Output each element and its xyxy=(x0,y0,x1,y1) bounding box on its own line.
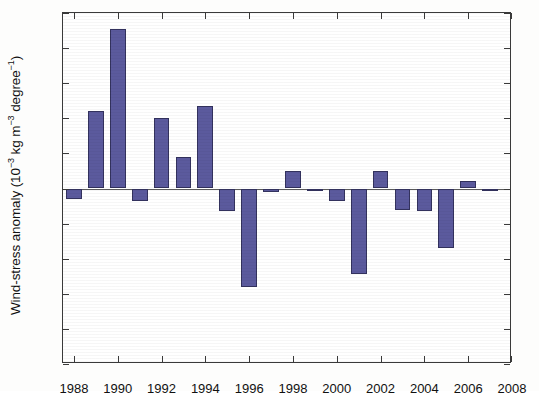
y-tick--1-right xyxy=(504,364,510,365)
x-tick-label-2008: 2008 xyxy=(489,381,535,396)
x-tick-2006 xyxy=(468,356,469,362)
bar-1995 xyxy=(219,189,235,212)
bar-2007 xyxy=(482,189,498,191)
y-axis-label-exp3: −1 xyxy=(6,60,16,70)
x-tick-1996 xyxy=(249,356,250,362)
x-tick-1990-top xyxy=(118,13,119,19)
x-tick-1988-top xyxy=(74,13,75,19)
y-tick-1 xyxy=(63,13,69,14)
bar-2004 xyxy=(417,189,433,212)
y-tick--1 xyxy=(63,364,69,365)
x-tick-label-1988: 1988 xyxy=(51,381,97,396)
x-tick-2004 xyxy=(424,356,425,362)
y-tick--0_4-right xyxy=(504,259,510,260)
x-tick-2002 xyxy=(381,356,382,362)
y-tick-0_2-right xyxy=(504,153,510,154)
bar-1990 xyxy=(110,29,126,189)
bar-1991 xyxy=(132,189,148,201)
y-axis-label-exp1: −3 xyxy=(6,158,16,168)
bar-1993 xyxy=(176,157,192,189)
bar-1989 xyxy=(88,111,104,188)
y-tick--0_8 xyxy=(63,329,69,330)
bar-1999 xyxy=(307,189,323,191)
x-tick-2004-top xyxy=(424,13,425,19)
x-tick-label-1994: 1994 xyxy=(182,381,228,396)
x-tick-1994 xyxy=(205,356,206,362)
x-tick-label-1996: 1996 xyxy=(226,381,272,396)
x-tick-label-2002: 2002 xyxy=(358,381,404,396)
x-tick-1990 xyxy=(118,356,119,362)
y-axis-label: Wind-stress anomaly (10−3 kg m−3 degree−… xyxy=(8,16,23,356)
x-tick-2000-top xyxy=(337,13,338,19)
y-tick-0_8-right xyxy=(504,48,510,49)
y-tick-0_2 xyxy=(63,153,69,154)
bar-2000 xyxy=(329,189,345,201)
bar-1988 xyxy=(66,189,82,200)
x-tick-1994-top xyxy=(205,13,206,19)
y-tick-0_6-right xyxy=(504,83,510,84)
x-tick-2008 xyxy=(511,356,512,362)
x-tick-label-1990: 1990 xyxy=(95,381,141,396)
y-tick-0_8 xyxy=(63,48,69,49)
y-axis-label-prefix: Wind-stress anomaly (10 xyxy=(8,168,23,315)
y-tick--0_2-right xyxy=(504,224,510,225)
x-tick-label-1998: 1998 xyxy=(270,381,316,396)
y-axis-label-mid: kg m xyxy=(8,126,23,159)
y-tick--0_8-right xyxy=(504,329,510,330)
x-tick-label-1992: 1992 xyxy=(139,381,185,396)
y-tick-0 xyxy=(63,189,69,190)
y-tick--0_2 xyxy=(63,224,69,225)
x-tick-label-2000: 2000 xyxy=(314,381,360,396)
x-tick-1992-top xyxy=(162,13,163,19)
bar-2001 xyxy=(351,189,367,275)
y-axis-label-mid2: degree xyxy=(8,70,23,115)
x-tick-1998 xyxy=(293,356,294,362)
x-tick-label-2006: 2006 xyxy=(445,381,491,396)
y-tick--0_6-right xyxy=(504,294,510,295)
y-axis-label-exp2: −3 xyxy=(6,115,16,125)
x-tick-1998-top xyxy=(293,13,294,19)
y-tick-1-right xyxy=(504,13,510,14)
x-tick-2006-top xyxy=(468,13,469,19)
bar-2003 xyxy=(395,189,411,210)
x-tick-2002-top xyxy=(381,13,382,19)
bar-2002 xyxy=(373,171,389,189)
y-tick-0_4-right xyxy=(504,118,510,119)
y-tick-0_6 xyxy=(63,83,69,84)
y-tick--0_6 xyxy=(63,294,69,295)
bar-1997 xyxy=(263,189,279,193)
bar-1992 xyxy=(154,118,170,188)
x-tick-1988 xyxy=(74,356,75,362)
x-tick-1992 xyxy=(162,356,163,362)
y-tick-0_4 xyxy=(63,118,69,119)
y-axis-label-container: Wind-stress anomaly (10−3 kg m−3 degree−… xyxy=(0,0,24,391)
y-axis-label-suffix: ) xyxy=(8,56,23,60)
y-tick-0-right xyxy=(504,189,510,190)
x-tick-2008-top xyxy=(511,13,512,19)
bar-1998 xyxy=(285,171,301,189)
y-tick--0_4 xyxy=(63,259,69,260)
bar-1996 xyxy=(241,189,257,287)
x-tick-1996-top xyxy=(249,13,250,19)
bar-1994 xyxy=(197,106,213,188)
bar-2005 xyxy=(438,189,454,249)
bar-2006 xyxy=(460,181,476,188)
plot-area: 10.80.60.40.20-0.2-0.4-0.6-0.8-1 1988199… xyxy=(62,12,511,363)
x-tick-label-2004: 2004 xyxy=(401,381,447,396)
x-tick-2000 xyxy=(337,356,338,362)
